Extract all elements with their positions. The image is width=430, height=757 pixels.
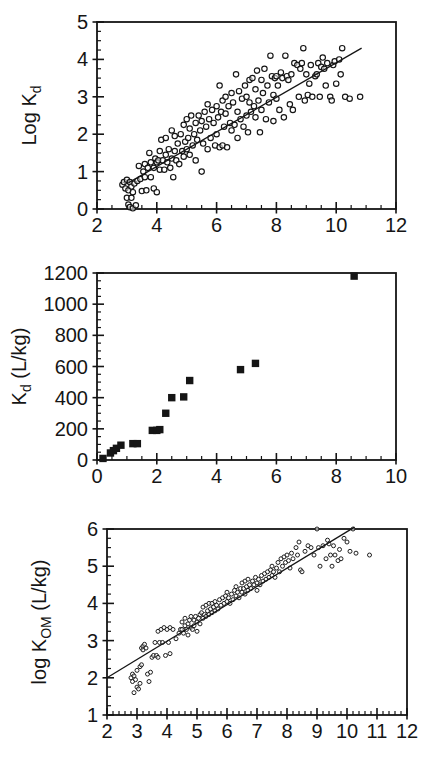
x-tick-label: 7 [251, 720, 262, 742]
x-tick-label: 8 [271, 214, 282, 236]
data-point [162, 410, 169, 417]
data-point [180, 620, 184, 624]
data-point [339, 45, 344, 50]
data-point [233, 72, 238, 77]
x-tick-label: 8 [281, 720, 292, 742]
x-tick-label: 6 [271, 465, 282, 487]
data-point [227, 596, 231, 600]
data-point [272, 570, 276, 574]
data-point [197, 128, 202, 133]
fit-line [128, 48, 361, 183]
data-point [333, 553, 337, 557]
data-point [329, 553, 333, 557]
data-point [181, 122, 186, 127]
data-point [189, 614, 193, 618]
data-point [156, 655, 160, 659]
data-point [99, 455, 106, 462]
data-point [234, 585, 238, 589]
data-point [237, 366, 244, 373]
data-point [310, 94, 315, 99]
data-point [138, 681, 142, 685]
data-point [153, 640, 157, 644]
data-point [187, 152, 192, 157]
y-tick-label: 4 [77, 48, 88, 70]
data-point [132, 691, 136, 695]
data-point [193, 120, 198, 125]
data-point [307, 81, 312, 86]
plot-border [107, 529, 407, 715]
data-point [195, 629, 199, 633]
data-point [166, 146, 171, 151]
data-point [187, 126, 192, 131]
middle-scatter-plot: 0246810020040060080010001200Kd (L/kg) [0, 250, 430, 500]
data-point [265, 83, 270, 88]
x-tick-label: 4 [211, 465, 222, 487]
data-point [275, 83, 280, 88]
data-point [257, 577, 261, 581]
y-tick-label: 200 [55, 418, 88, 440]
chart-middle-kd: 0246810020040060080010001200Kd (L/kg) [0, 250, 430, 500]
data-point [236, 590, 240, 594]
data-point [171, 627, 175, 631]
data-point [255, 588, 259, 592]
data-point [296, 94, 301, 99]
y-tick-label: 2 [77, 123, 88, 145]
data-point [320, 55, 325, 60]
data-point [324, 557, 328, 561]
x-tick-label: 4 [161, 720, 172, 742]
data-point [345, 540, 349, 544]
data-point [296, 553, 300, 557]
y-tick-label: 1200 [44, 262, 89, 284]
data-point [230, 592, 234, 596]
data-point [163, 152, 168, 157]
data-point [229, 90, 234, 95]
data-point [285, 553, 289, 557]
x-tick-label: 0 [91, 465, 102, 487]
top-scatter-plot: 24681012012345Log Kd [0, 0, 430, 250]
data-point [260, 90, 265, 95]
x-tick-label: 9 [311, 720, 322, 742]
y-tick-label: 3 [87, 630, 98, 652]
data-point [129, 195, 134, 200]
data-point [299, 60, 304, 65]
data-point [347, 96, 352, 101]
data-point [357, 94, 362, 99]
data-point [281, 564, 285, 568]
data-point [338, 72, 343, 77]
data-point [142, 175, 147, 180]
data-point [130, 189, 135, 194]
data-point [276, 560, 280, 564]
x-tick-label: 6 [211, 214, 222, 236]
data-point [154, 189, 159, 194]
data-point [354, 551, 358, 555]
data-point [253, 115, 258, 120]
x-tick-label: 2 [151, 465, 162, 487]
data-point [223, 111, 228, 116]
data-point [215, 115, 220, 120]
data-point [259, 77, 264, 82]
data-point [235, 109, 240, 114]
data-point [186, 633, 190, 637]
data-point [172, 133, 177, 138]
x-tick-label: 10 [385, 465, 407, 487]
bottom-scatter-plot: 23456789101112123456log KOM (L/kg) [0, 500, 430, 757]
data-point [338, 547, 342, 551]
plot-border [97, 273, 396, 460]
data-point [140, 663, 144, 667]
data-point [230, 100, 235, 105]
data-point [157, 148, 162, 153]
y-axis-title: Log Kd [18, 85, 44, 145]
data-point [133, 203, 138, 208]
data-point [217, 83, 222, 88]
chart-top-log-kd: 24681012012345Log Kd [0, 0, 430, 250]
y-tick-label: 1000 [44, 293, 89, 315]
data-point [259, 107, 264, 112]
data-point [148, 175, 153, 180]
data-point [290, 551, 294, 555]
data-point [297, 540, 301, 544]
data-point [214, 103, 219, 108]
y-tick-label: 0 [77, 198, 88, 220]
y-tick-label: 3 [77, 86, 88, 108]
x-tick-label: 2 [101, 720, 112, 742]
data-point [250, 75, 255, 80]
